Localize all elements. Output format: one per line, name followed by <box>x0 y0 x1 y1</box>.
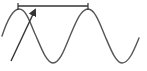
wave-diagram-canvas <box>0 0 147 71</box>
wave-diagram <box>0 0 147 71</box>
pointer-arrow <box>11 10 35 61</box>
wavelength-marker <box>18 3 88 10</box>
